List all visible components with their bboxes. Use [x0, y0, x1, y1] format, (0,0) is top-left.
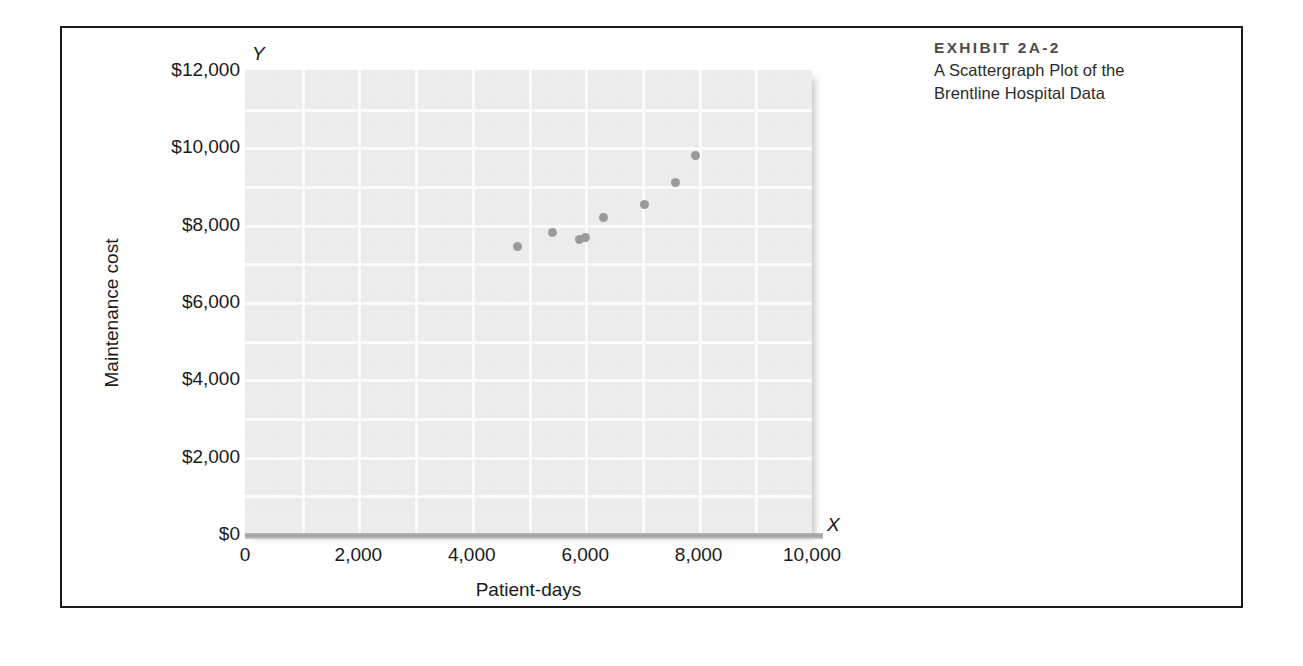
data-point: [691, 151, 700, 160]
data-point: [640, 200, 649, 209]
gridline-horizontal: [245, 457, 812, 460]
y-axis-tick-labels: $0$2,000$4,000$6,000$8,000$10,000$12,000: [120, 28, 240, 610]
gridline-horizontal: [245, 495, 812, 498]
gridline-horizontal: [245, 109, 812, 112]
y-axis-tick-label: $2,000: [130, 446, 240, 468]
x-axis-tick-label: 4,000: [448, 544, 496, 566]
y-axis-letter: Y: [252, 43, 265, 65]
caption-line-2: Brentline Hospital Data: [934, 82, 1224, 105]
y-axis-tick-label: $6,000: [130, 291, 240, 313]
exhibit-frame: Y $0$2,000$4,000$6,000$8,000$10,000$12,0…: [60, 26, 1243, 608]
y-axis-tick-label: $12,000: [130, 59, 240, 81]
x-axis-tick-label: 2,000: [335, 544, 383, 566]
data-point: [599, 213, 608, 222]
gridline-horizontal: [245, 341, 812, 344]
gridline-horizontal: [245, 263, 812, 266]
exhibit-caption: EXHIBIT 2A-2 A Scattergraph Plot of the …: [934, 38, 1224, 106]
data-point: [671, 178, 680, 187]
x-axis-tick-label: 6,000: [561, 544, 609, 566]
gridline-horizontal: [245, 379, 812, 382]
x-axis-title: Patient-days: [245, 579, 812, 601]
caption-line-1: A Scattergraph Plot of the: [934, 59, 1224, 82]
gridline-horizontal: [245, 418, 812, 421]
y-axis-tick-label: $8,000: [130, 214, 240, 236]
data-point: [513, 242, 522, 251]
scattergraph-chart: Y $0$2,000$4,000$6,000$8,000$10,000$12,0…: [62, 28, 1245, 610]
plot-area: [245, 70, 812, 534]
x-axis-letter: X: [827, 514, 840, 536]
y-axis-tick-label: $0: [130, 523, 240, 545]
gridline-horizontal: [245, 147, 812, 150]
y-axis-tick-label: $10,000: [130, 136, 240, 158]
y-axis-tick-label: $4,000: [130, 368, 240, 390]
x-axis-tick-label: 0: [240, 544, 251, 566]
x-axis-tick-label: 8,000: [675, 544, 723, 566]
gridline-horizontal: [245, 186, 812, 189]
gridline-horizontal: [245, 225, 812, 228]
data-point: [548, 228, 557, 237]
gridline-horizontal: [245, 302, 812, 305]
exhibit-number: EXHIBIT 2A-2: [934, 38, 1224, 59]
data-point: [575, 235, 584, 244]
y-axis-title: Maintenance cost: [101, 183, 123, 443]
x-axis-tick-label: 10,000: [783, 544, 841, 566]
x-axis-line: [245, 533, 823, 539]
